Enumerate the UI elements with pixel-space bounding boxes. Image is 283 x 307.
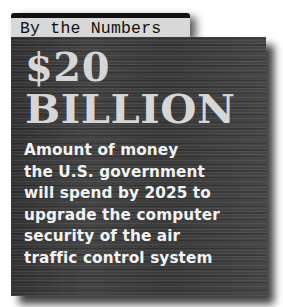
stat-unit: BILLION [25, 85, 235, 132]
stat-panel: $20 BILLION Amount of money the U.S. gov… [11, 37, 266, 296]
description-line: Amount of money [24, 140, 264, 162]
description-line: will spend by 2025 to [24, 183, 264, 205]
description-line: traffic control system [24, 248, 264, 270]
section-title: By the Numbers [20, 19, 161, 38]
description-line: upgrade the computer [24, 205, 264, 227]
description-line: security of the air [24, 226, 264, 248]
section-tab: By the Numbers [11, 13, 190, 37]
stat-description: Amount of money the U.S. government will… [24, 140, 264, 269]
stat-amount: $20 [25, 43, 110, 90]
description-line: the U.S. government [24, 162, 264, 184]
